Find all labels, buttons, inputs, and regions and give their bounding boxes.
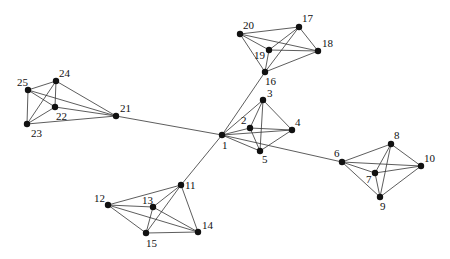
node-label-19: 19: [254, 49, 266, 61]
edge-13-14: [153, 207, 198, 232]
node-label-12: 12: [94, 192, 105, 204]
node-15: [143, 230, 149, 236]
node-7: [372, 170, 378, 176]
node-layer: [24, 24, 424, 236]
node-label-15: 15: [146, 237, 158, 249]
node-label-5: 5: [262, 153, 268, 165]
edge-4-5: [260, 130, 292, 151]
node-label-21: 21: [120, 102, 131, 114]
edge-1-6: [222, 135, 342, 162]
node-11: [178, 182, 184, 188]
node-21: [113, 113, 119, 119]
node-6: [339, 159, 345, 165]
edge-22-25: [28, 90, 55, 107]
edge-24-25: [28, 81, 56, 90]
edge-13-15: [146, 207, 153, 233]
node-label-24: 24: [59, 67, 71, 79]
node-label-14: 14: [202, 219, 214, 231]
node-label-9: 9: [380, 200, 386, 212]
node-label-11: 11: [185, 179, 196, 191]
edge-2-4: [250, 128, 292, 130]
edge-6-9: [342, 162, 380, 197]
edge-2-3: [250, 100, 263, 128]
label-layer: 1234567891011121314151617181920212223242…: [17, 12, 436, 249]
edge-6-10: [342, 162, 421, 166]
node-label-2: 2: [241, 114, 247, 126]
edge-23-24: [27, 81, 56, 124]
node-label-8: 8: [394, 129, 400, 141]
node-label-3: 3: [267, 87, 273, 99]
node-label-25: 25: [17, 76, 29, 88]
edge-14-15: [146, 232, 198, 233]
node-1: [219, 132, 225, 138]
edge-1-21: [116, 116, 222, 135]
node-label-10: 10: [424, 152, 436, 164]
node-label-18: 18: [322, 37, 334, 49]
edge-layer: [27, 27, 421, 233]
edge-7-10: [375, 166, 421, 173]
edge-6-8: [342, 144, 391, 162]
edge-19-20: [240, 34, 269, 50]
node-8: [388, 141, 394, 147]
edge-23-25: [27, 90, 28, 124]
node-label-4: 4: [295, 116, 301, 128]
edge-21-23: [27, 116, 116, 124]
node-label-13: 13: [142, 194, 154, 206]
edge-8-10: [391, 144, 421, 166]
edge-22-24: [55, 81, 56, 107]
node-label-22: 22: [56, 110, 67, 122]
edge-3-4: [263, 100, 292, 130]
edge-12-15: [108, 205, 146, 233]
edge-7-8: [375, 144, 391, 173]
node-3: [260, 97, 266, 103]
node-18: [315, 48, 321, 54]
node-20: [237, 31, 243, 37]
node-label-6: 6: [334, 147, 340, 159]
node-label-17: 17: [302, 12, 314, 24]
node-label-1: 1: [222, 139, 228, 151]
node-2: [247, 125, 253, 131]
edge-18-19: [269, 50, 318, 51]
node-19: [266, 47, 272, 53]
node-23: [24, 121, 30, 127]
network-graph: 1234567891011121314151617181920212223242…: [0, 0, 450, 259]
node-label-20: 20: [243, 19, 255, 31]
node-label-16: 16: [265, 75, 277, 87]
edge-22-23: [27, 107, 55, 124]
node-17: [296, 24, 302, 30]
node-label-7: 7: [366, 173, 372, 185]
node-14: [195, 229, 201, 235]
edge-1-11: [181, 135, 222, 185]
edge-9-10: [380, 166, 421, 197]
edge-11-14: [181, 185, 198, 232]
node-label-23: 23: [31, 127, 43, 139]
node-12: [105, 202, 111, 208]
